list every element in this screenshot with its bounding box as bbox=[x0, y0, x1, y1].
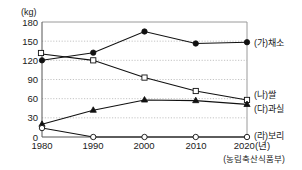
y-axis-unit-label: (kg) bbox=[21, 7, 37, 17]
data-point-marker bbox=[91, 134, 96, 139]
y-tick-label: 60 bbox=[27, 93, 38, 104]
y-tick-label: 30 bbox=[27, 112, 38, 123]
legend-label-ga: (가)채소 bbox=[254, 38, 284, 48]
x-tick-label: 2000 bbox=[133, 140, 154, 151]
legend-label-da: (다)과실 bbox=[254, 104, 284, 114]
y-tick-label: 180 bbox=[22, 17, 38, 28]
data-point-marker bbox=[244, 134, 249, 139]
y-tick-label: 150 bbox=[22, 36, 38, 47]
data-point-marker bbox=[244, 40, 249, 45]
data-point-marker bbox=[142, 75, 147, 80]
x-tick-label: 1980 bbox=[31, 140, 52, 151]
chart-canvas: (kg) 180 150 120 90 60 30 0 bbox=[0, 0, 302, 170]
data-point-marker bbox=[38, 50, 43, 55]
legend-label-na: (나)쌀 bbox=[254, 90, 276, 100]
x-tick-label: 2020(년) bbox=[234, 140, 270, 151]
data-point-marker bbox=[39, 58, 44, 63]
x-tick-label: 2010 bbox=[185, 140, 206, 151]
data-point-marker bbox=[193, 88, 198, 93]
data-point-marker bbox=[91, 50, 96, 55]
data-point-marker bbox=[193, 134, 198, 139]
line-chart: (kg) 180 150 120 90 60 30 0 bbox=[0, 0, 302, 170]
y-tick-label: 120 bbox=[22, 55, 38, 66]
data-point-marker bbox=[39, 125, 44, 130]
data-point-marker bbox=[193, 41, 198, 46]
y-tick-label: 90 bbox=[27, 74, 38, 85]
legend-label-ra: (라)보리 bbox=[254, 131, 284, 141]
data-point-marker bbox=[91, 58, 96, 63]
data-point-marker bbox=[142, 29, 147, 34]
data-point-marker bbox=[142, 134, 147, 139]
x-tick-label: 1990 bbox=[82, 140, 103, 151]
source-label: (농림축산식품부) bbox=[223, 154, 285, 164]
